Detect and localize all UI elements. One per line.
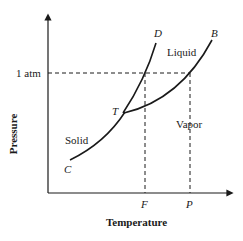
point-d-label: D — [153, 27, 162, 39]
x-axis-label: Temperature — [106, 216, 167, 228]
f-tick-label: F — [140, 198, 148, 210]
one-atm-label: 1 atm — [16, 67, 41, 79]
point-c-label: C — [64, 163, 72, 175]
vapor-label: Vapor — [176, 118, 203, 130]
p-tick-label: P — [185, 198, 193, 210]
solid-label: Solid — [65, 134, 89, 146]
point-t-label: T — [112, 105, 119, 117]
y-axis-label: Pressure — [7, 114, 19, 155]
point-b-label: B — [211, 27, 218, 39]
phase-diagram: D B Liquid 1 atm T Vapor Solid C F P Tem… — [0, 0, 243, 241]
liquid-label: Liquid — [167, 46, 197, 58]
